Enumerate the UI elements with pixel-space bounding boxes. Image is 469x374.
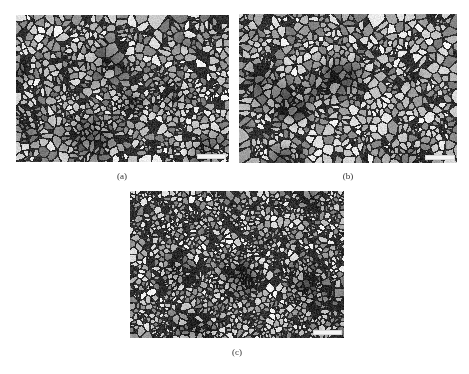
scale-bar: [197, 154, 226, 159]
micrograph-panel-c: [130, 191, 344, 338]
micrograph-panel-a: [16, 15, 229, 162]
scale-bar: [425, 155, 455, 160]
panel-label-a: (a): [107, 171, 137, 181]
micrograph-panel-b: [239, 14, 457, 163]
panel-label-b: (b): [333, 171, 363, 181]
scale-bar: [313, 330, 342, 335]
panel-label-c: (c): [222, 347, 252, 357]
